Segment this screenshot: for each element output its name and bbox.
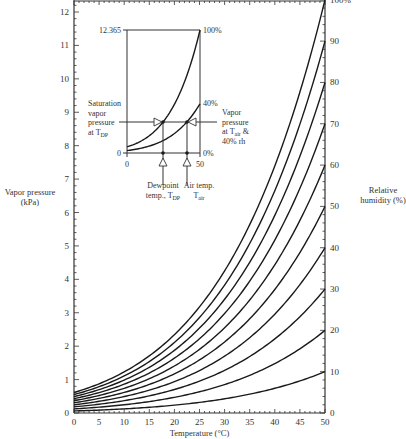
- x-tick-label: 35: [245, 417, 255, 427]
- y-tick-label: 8: [65, 141, 70, 151]
- vapor-pressure-chart: 12.3650050100%40%0%Saturationvaporpressu…: [0, 0, 406, 439]
- annotation-saturation-line: vapor: [88, 109, 107, 118]
- y2-axis-title-unit: humidity (%): [360, 195, 406, 205]
- y-tick-label: 11: [60, 40, 69, 50]
- annotation-saturation-line: pressure: [88, 118, 115, 127]
- y2-tick-label: 80: [330, 77, 340, 87]
- y-tick-label: 7: [65, 174, 70, 184]
- air-temp-label: Air temp.: [184, 181, 215, 190]
- axis-labels: 0510152025303540455001234567891011120102…: [5, 0, 406, 438]
- inset-y-top-label: 12.365: [99, 26, 121, 35]
- y2-tick-label: 10: [330, 367, 340, 377]
- y2-tick-label: 20: [330, 325, 340, 335]
- x-axis-title: Temperature (°C): [170, 428, 230, 438]
- inset-x-right-label: 50: [196, 160, 204, 169]
- y-tick-label: 5: [65, 241, 70, 251]
- y2-tick-label: 50: [330, 201, 340, 211]
- y2-tick-label: 100%: [330, 0, 352, 5]
- y2-tick-label: 90: [330, 36, 340, 46]
- y-tick-label: 2: [65, 341, 70, 351]
- annotation-saturation-line: at TDP: [88, 128, 109, 138]
- y-tick-label: 10: [60, 74, 70, 84]
- annotation-vapor-line: Vapor: [222, 108, 241, 117]
- x-tick-label: 0: [72, 417, 77, 427]
- x-tick-label: 20: [170, 417, 180, 427]
- x-tick-label: 15: [145, 417, 155, 427]
- annotation-saturation-line: Saturation: [88, 99, 121, 108]
- rh-curve-50: [74, 206, 325, 402]
- arrow-up-icon: [159, 158, 167, 166]
- x-tick-label: 40: [270, 417, 280, 427]
- y-tick-label: 12: [60, 7, 69, 17]
- inset-x-left-label: 0: [125, 160, 129, 169]
- air-temp-label: Tair: [193, 191, 204, 201]
- y2-tick-label: 40: [330, 243, 340, 253]
- x-tick-label: 5: [97, 417, 102, 427]
- inset-label-40: 40%: [203, 99, 218, 108]
- rh-curve-20: [74, 330, 325, 409]
- y-tick-label: 9: [65, 107, 70, 117]
- y-tick-label: 4: [65, 274, 70, 284]
- y-axis-title: Vapor pressure: [5, 187, 56, 197]
- dewpoint-label: Dewpoint: [147, 181, 179, 190]
- inset-label-100: 100%: [203, 26, 222, 35]
- arrow-up-icon: [183, 158, 191, 166]
- x-tick-label: 30: [220, 417, 230, 427]
- annotation-vapor-line: 40% rh: [222, 137, 245, 146]
- x-tick-label: 50: [321, 417, 331, 427]
- y-tick-label: 0: [65, 408, 70, 418]
- y-tick-label: 1: [65, 375, 70, 385]
- y2-tick-label: 30: [330, 284, 340, 294]
- x-tick-label: 10: [120, 417, 130, 427]
- y-tick-label: 6: [65, 208, 70, 218]
- y2-tick-label: 0: [330, 408, 335, 418]
- annotation-vapor-line: pressure: [222, 118, 249, 127]
- y-axis-title-unit: (kPa): [21, 197, 40, 207]
- inset-label-0: 0%: [203, 149, 214, 158]
- y2-tick-label: 60: [330, 160, 340, 170]
- y2-axis-title: Relative: [369, 185, 398, 195]
- x-tick-label: 45: [295, 417, 305, 427]
- y2-tick-label: 70: [330, 119, 340, 129]
- x-tick-label: 25: [195, 417, 205, 427]
- dewpoint-label: temp., TDP: [146, 191, 181, 201]
- y-tick-label: 3: [65, 308, 70, 318]
- inset-diagram: 12.3650050100%40%0%Saturationvaporpressu…: [88, 26, 250, 201]
- annotation-vapor-line: at Tair &: [222, 127, 250, 137]
- inset-y-bottom-label: 0: [117, 149, 121, 158]
